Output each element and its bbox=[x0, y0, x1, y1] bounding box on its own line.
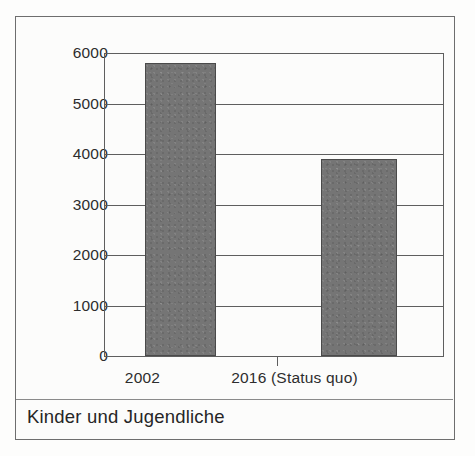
figure-caption: Kinder und Jugendliche bbox=[27, 406, 225, 428]
category-label-2016-status-quo: 2016 (Status quo) bbox=[216, 369, 373, 387]
y-axis-label-1000: 1000 bbox=[52, 297, 108, 315]
plot-right-border bbox=[443, 53, 444, 357]
plot-area bbox=[104, 53, 443, 356]
gridline-0 bbox=[104, 356, 443, 357]
category-label-2002: 2002 bbox=[105, 369, 180, 387]
gridline-6000 bbox=[104, 53, 443, 54]
y-axis-label-5000: 5000 bbox=[52, 95, 108, 113]
caption-divider bbox=[16, 399, 453, 400]
bar-2002[interactable] bbox=[145, 63, 216, 356]
y-axis-labels: 6000 5000 4000 3000 2000 1000 0 bbox=[46, 17, 108, 456]
y-axis-label-4000: 4000 bbox=[52, 145, 108, 163]
figure-frame: 6000 5000 4000 3000 2000 1000 0 bbox=[15, 16, 455, 440]
y-axis-label-2000: 2000 bbox=[52, 246, 108, 264]
category-axis-tick bbox=[277, 357, 278, 366]
y-axis-label-6000: 6000 bbox=[52, 44, 108, 62]
y-axis-label-0: 0 bbox=[52, 347, 108, 365]
y-axis-label-3000: 3000 bbox=[52, 196, 108, 214]
scanned-figure-page: 6000 5000 4000 3000 2000 1000 0 bbox=[0, 0, 475, 456]
bar-2016-status-quo[interactable] bbox=[321, 159, 397, 356]
